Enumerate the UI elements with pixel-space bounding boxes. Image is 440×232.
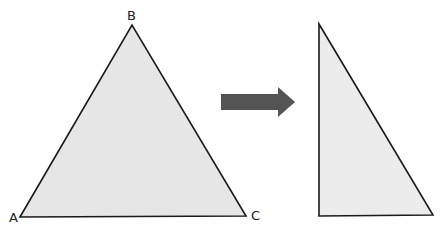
right-arrow-icon — [221, 87, 295, 117]
vertex-label-b: B — [127, 8, 136, 23]
vertex-label-a: A — [9, 210, 18, 225]
diagram-canvas: B A C — [0, 0, 440, 232]
right-triangle-result — [319, 24, 433, 216]
vertex-label-c: C — [251, 208, 260, 223]
triangle-abc — [20, 25, 246, 217]
